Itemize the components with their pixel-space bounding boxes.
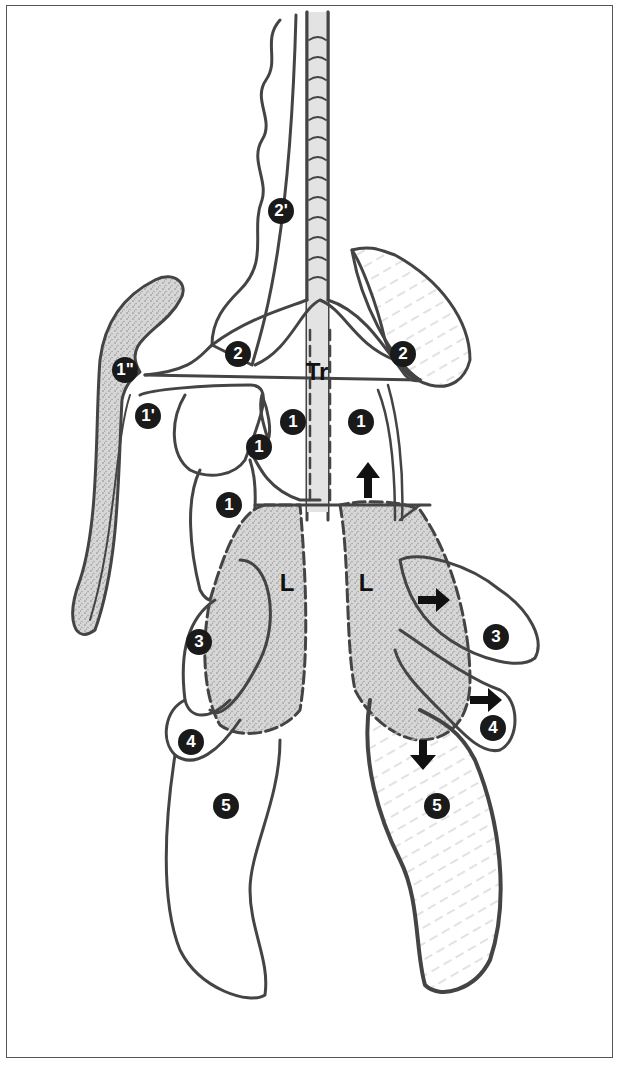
badge-1-a: 1 (280, 409, 306, 435)
label-trachea: Tr (306, 358, 329, 386)
badge-3-right: 3 (483, 624, 509, 650)
badge-5-right: 5 (424, 793, 450, 819)
badge-1-double-prime: 1" (112, 357, 138, 383)
badge-1-d: 1 (216, 492, 242, 518)
label-lung-left: L (280, 569, 295, 597)
anatomy-drawing (0, 0, 621, 1066)
trachea (307, 12, 330, 520)
badge-4-left: 4 (178, 729, 204, 755)
badge-1-prime: 1' (135, 403, 161, 429)
badge-1-c: 1 (348, 409, 374, 435)
badge-5-left: 5 (213, 793, 239, 819)
badge-1-b: 1 (246, 434, 272, 460)
badge-2-prime: 2' (268, 198, 294, 224)
badge-2-left: 2 (225, 341, 251, 367)
label-lung-right: L (359, 569, 374, 597)
badge-3-left: 3 (186, 629, 212, 655)
badge-4-right: 4 (480, 715, 506, 741)
badge-2-right: 2 (390, 341, 416, 367)
